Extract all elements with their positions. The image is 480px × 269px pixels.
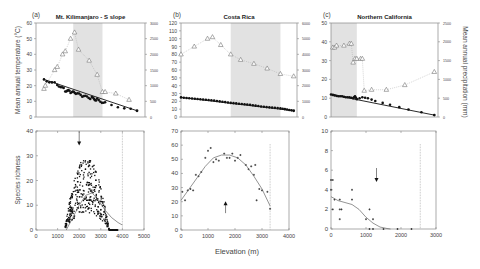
y-tick-label: 70 bbox=[171, 59, 177, 65]
x-tick-label: 2000 bbox=[229, 233, 241, 239]
bottom-panel-2: 01020304050607001000200030004000 bbox=[171, 128, 295, 239]
y-tick-label: 10 bbox=[171, 106, 177, 112]
y-tick-label: 10 bbox=[321, 95, 327, 101]
y-tick-label: 30 bbox=[26, 67, 32, 73]
x-tick-label: 4000 bbox=[283, 233, 295, 239]
bottom-panel-3: 02468100100020003000 bbox=[321, 128, 442, 238]
panel-title: Costa Rica bbox=[223, 14, 255, 20]
y-tick-label: 10 bbox=[26, 98, 32, 104]
y2-tick-label: 0 bbox=[443, 116, 445, 120]
x-tick-label: 3000 bbox=[256, 233, 268, 239]
y-tick-label: 20 bbox=[26, 83, 32, 89]
y-tick-label: 50 bbox=[321, 20, 327, 26]
y2-tick-label: 2000 bbox=[150, 53, 158, 57]
panel-title: Northern California bbox=[357, 14, 412, 20]
y-tick-label: 2 bbox=[325, 206, 329, 212]
y-tick-label: 20 bbox=[26, 178, 33, 184]
y-tick-label: 0 bbox=[30, 227, 34, 233]
panel-title: Mt. Kilimanjaro - S slope bbox=[56, 14, 126, 20]
plot-frame bbox=[36, 131, 144, 230]
y-tick-label: 40 bbox=[321, 39, 327, 45]
y-tick-label: 60 bbox=[171, 142, 178, 148]
y2-tick-label: 2000 bbox=[302, 84, 310, 88]
y-tick-label: 120 bbox=[169, 20, 178, 26]
y2-tick-label: 2500 bbox=[443, 22, 451, 26]
y2-tick-label: 1500 bbox=[443, 59, 451, 63]
y-tick-label: 100 bbox=[169, 36, 178, 42]
x-axis-label-elevation: Elevation (m) bbox=[215, 247, 260, 256]
shaded-band bbox=[331, 23, 357, 117]
y-tick-label: 40 bbox=[26, 128, 33, 134]
x-tick-label: 0 bbox=[34, 233, 37, 239]
y-tick-label: 30 bbox=[26, 153, 33, 159]
y-tick-label: 110 bbox=[169, 28, 177, 34]
y-tick-label: 30 bbox=[171, 185, 178, 191]
y-tick-label: 40 bbox=[171, 170, 178, 176]
y-tick-label: 70 bbox=[171, 128, 178, 134]
y2-tick-label: 1000 bbox=[150, 84, 158, 88]
x-tick-label: 1000 bbox=[51, 233, 63, 239]
y-tick-label: 0 bbox=[325, 226, 329, 232]
y2-tick-label: 2000 bbox=[443, 40, 451, 44]
y-tick-label: 20 bbox=[321, 76, 327, 82]
y-tick-label: 0 bbox=[175, 227, 179, 233]
y-axis-label-temperature: Mean annual temperature (°C) bbox=[14, 26, 22, 114]
y-tick-label: 10 bbox=[321, 128, 328, 134]
arrow-icon bbox=[224, 201, 228, 205]
y-axis-label-richness: Species richness bbox=[14, 155, 22, 205]
y2-tick-label: 500 bbox=[443, 97, 449, 101]
y2-tick-label: 4000 bbox=[302, 53, 310, 57]
y-tick-label: 20 bbox=[171, 199, 178, 205]
x-tick-label: 1000 bbox=[202, 233, 214, 239]
x-tick-label: 3000 bbox=[95, 233, 107, 239]
y2-tick-label: 6000 bbox=[302, 22, 310, 26]
y2-tick-label: 0 bbox=[302, 116, 304, 120]
y-tick-label: 50 bbox=[171, 75, 177, 81]
x-tick-label: 2000 bbox=[73, 233, 85, 239]
fit-curve bbox=[331, 197, 391, 229]
arrow-icon bbox=[77, 141, 81, 145]
y2-tick-label: 3000 bbox=[302, 69, 310, 73]
y-tick-label: 60 bbox=[26, 20, 32, 26]
y-tick-label: 50 bbox=[26, 36, 32, 42]
y-tick-label: 0 bbox=[324, 114, 327, 120]
plot-frame bbox=[181, 131, 289, 230]
x-tick-label: 3000 bbox=[430, 232, 442, 238]
panel-letter: (c) bbox=[323, 11, 331, 19]
y2-tick-label: 1000 bbox=[302, 100, 310, 104]
y-tick-label: 4 bbox=[325, 187, 329, 193]
panel-letter: (b) bbox=[173, 11, 181, 19]
x-tick-label: 1000 bbox=[360, 232, 372, 238]
y2-tick-label: 1000 bbox=[443, 78, 451, 82]
y-tick-label: 40 bbox=[171, 83, 177, 89]
x-tick-label: 5000 bbox=[138, 233, 150, 239]
shaded-band bbox=[73, 23, 102, 117]
top-panel-1: 0102030405060050010001500200025003000Mt.… bbox=[26, 11, 158, 120]
y-tick-label: 8 bbox=[325, 148, 329, 154]
y-tick-label: 50 bbox=[171, 156, 178, 162]
x-tick-label: 0 bbox=[179, 233, 182, 239]
y-tick-label: 10 bbox=[26, 202, 33, 208]
y2-tick-label: 1500 bbox=[150, 69, 158, 73]
y-tick-label: 30 bbox=[321, 58, 327, 64]
y-tick-label: 0 bbox=[174, 114, 177, 120]
bottom-panel-1: 010203040010002000300040005000 bbox=[26, 128, 150, 239]
y-axis-label-precipitation: Mean annual precipitation (mm) bbox=[461, 26, 469, 117]
y2-tick-label: 3000 bbox=[150, 22, 158, 26]
panel-letter: (a) bbox=[32, 11, 40, 19]
x-tick-label: 0 bbox=[329, 232, 332, 238]
figure-canvas: 0102030405060050010001500200025003000Mt.… bbox=[0, 0, 480, 269]
top-panel-3: 0102030405005001000150020002500Northern … bbox=[321, 11, 451, 120]
y-tick-label: 80 bbox=[171, 51, 177, 57]
y-tick-label: 90 bbox=[171, 44, 177, 50]
y2-tick-label: 0 bbox=[150, 116, 152, 120]
y2-tick-label: 500 bbox=[150, 100, 156, 104]
y-tick-label: 60 bbox=[171, 67, 177, 73]
y-tick-label: 10 bbox=[171, 213, 178, 219]
y-tick-label: 20 bbox=[171, 98, 177, 104]
y2-tick-label: 5000 bbox=[302, 37, 310, 41]
x-tick-label: 2000 bbox=[395, 232, 407, 238]
y-tick-label: 30 bbox=[171, 91, 177, 97]
arrow-icon bbox=[375, 178, 379, 182]
top-panel-2: 0102030405060708090100110120010002000300… bbox=[169, 11, 310, 120]
